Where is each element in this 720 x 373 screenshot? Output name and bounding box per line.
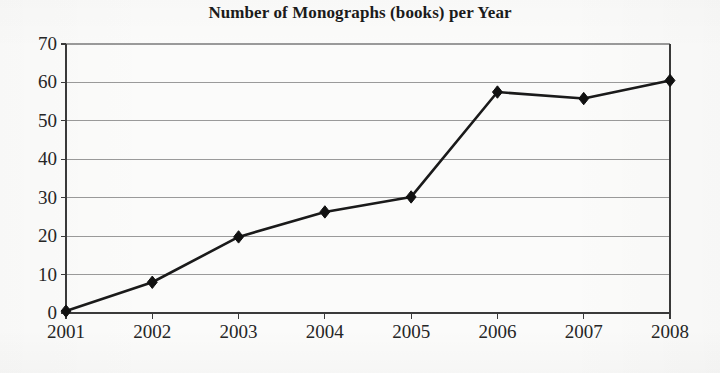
x-axis-label-2004: 2004 bbox=[290, 322, 360, 341]
data-point-2007 bbox=[579, 92, 589, 104]
line-chart-svg bbox=[0, 0, 720, 373]
y-axis-label-30: 30 bbox=[13, 188, 57, 207]
x-tick-marks-group bbox=[66, 313, 670, 319]
x-axis-label-2007: 2007 bbox=[549, 322, 619, 341]
data-point-2001 bbox=[61, 305, 71, 317]
x-axis-label-2006: 2006 bbox=[462, 322, 532, 341]
y-axis-label-20: 20 bbox=[13, 226, 57, 245]
data-point-2002 bbox=[147, 276, 157, 288]
x-axis-label-2008: 2008 bbox=[635, 322, 705, 341]
x-axis-label-2001: 2001 bbox=[31, 322, 101, 341]
data-point-2004 bbox=[320, 206, 330, 218]
y-axis-label-60: 60 bbox=[13, 72, 57, 91]
x-axis-label-2005: 2005 bbox=[376, 322, 446, 341]
plot-area: 706050403020100 200120022003200420052006… bbox=[0, 0, 720, 373]
gridlines-group bbox=[66, 44, 670, 275]
data-point-markers-group bbox=[61, 74, 675, 317]
axis-lines-group bbox=[66, 44, 670, 313]
data-line-group bbox=[66, 81, 670, 312]
data-series-line bbox=[66, 81, 670, 312]
y-axis-label-50: 50 bbox=[13, 111, 57, 130]
y-axis-label-0: 0 bbox=[13, 303, 57, 322]
x-axis-label-2003: 2003 bbox=[204, 322, 274, 341]
chart-page: Number of Monographs (books) per Year 70… bbox=[0, 0, 720, 373]
data-point-2003 bbox=[234, 231, 244, 243]
y-axis-label-40: 40 bbox=[13, 149, 57, 168]
y-axis-label-10: 10 bbox=[13, 265, 57, 284]
data-point-2008 bbox=[665, 74, 675, 86]
y-tick-marks-group bbox=[61, 44, 66, 313]
x-axis-label-2002: 2002 bbox=[117, 322, 187, 341]
y-axis-label-70: 70 bbox=[13, 34, 57, 53]
